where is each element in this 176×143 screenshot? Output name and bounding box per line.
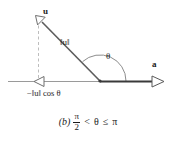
caption-panel-label: (b)	[59, 117, 71, 127]
label-projection-length: −‖u‖ cos θ	[27, 89, 60, 98]
caption-theta: θ	[94, 117, 99, 127]
fraction-numerator: π	[74, 112, 81, 121]
label-vector-u: u	[43, 7, 48, 16]
caption-relation-less-equal: ≤	[102, 117, 110, 127]
label-angle-theta: θ	[106, 52, 110, 61]
vector-u-shaft	[42, 22, 100, 81]
vector-a-arrowhead-icon	[152, 76, 164, 87]
caption-fraction-pi-over-2: π 2	[73, 112, 80, 132]
caption-relation-less-than: <	[83, 117, 91, 127]
figure-caption: (b) π 2 < θ ≤ π	[0, 112, 176, 132]
fraction-denominator: 2	[74, 123, 81, 132]
angle-arc	[83, 55, 126, 81]
label-vector-a: a	[152, 60, 157, 69]
label-magnitude-u: ‖u‖	[60, 38, 70, 47]
origin-point	[98, 79, 101, 82]
vector-projection-figure: u a ‖u‖ θ −‖u‖ cos θ (b) π 2 < θ ≤ π	[0, 0, 176, 143]
caption-pi: π	[112, 117, 117, 127]
caption-inner: (b) π 2 < θ ≤ π	[59, 112, 118, 132]
